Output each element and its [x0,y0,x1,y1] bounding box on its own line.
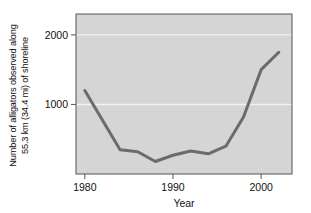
x-tick-label-1980: 1980 [73,181,97,193]
plot-svg: 10002000 198019902000 Year [0,0,311,213]
x-axis-title: Year [173,197,195,209]
plot-background [76,14,292,174]
x-tick-label-1990: 1990 [161,181,185,193]
alligator-population-chart: Number of alligators observed along 55.3… [0,0,311,213]
y-axis-ticks: 10002000 [45,29,76,111]
x-tick-label-2000: 2000 [249,181,273,193]
x-axis-ticks: 198019902000 [73,174,273,193]
y-tick-label-2000: 2000 [45,29,69,41]
y-tick-label-1000: 1000 [45,98,69,110]
